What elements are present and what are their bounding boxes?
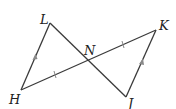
label-l: L bbox=[39, 12, 49, 27]
label-j: J bbox=[125, 96, 134, 109]
geometry-diagram: L K N H J bbox=[0, 0, 176, 109]
segment-hk bbox=[21, 30, 156, 90]
label-k: K bbox=[158, 18, 170, 33]
label-n: N bbox=[83, 43, 96, 58]
label-h: H bbox=[8, 92, 21, 107]
